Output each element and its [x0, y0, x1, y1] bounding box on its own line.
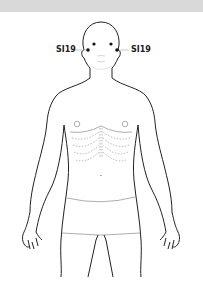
acupoints [86, 42, 119, 51]
rib-lines [72, 128, 130, 161]
eye-point-right [109, 42, 112, 45]
point-label-right: SI19 [131, 45, 151, 54]
right-hand [160, 232, 180, 249]
si19-point-left [86, 48, 90, 52]
si19-point-right [115, 48, 119, 52]
head-outline [83, 22, 120, 68]
torso-outline [24, 68, 90, 232]
eye-point-left [92, 42, 95, 45]
body-figure [0, 0, 203, 293]
waistband [67, 197, 135, 202]
left-hand [23, 232, 43, 249]
point-label-left: SI19 [56, 45, 76, 54]
